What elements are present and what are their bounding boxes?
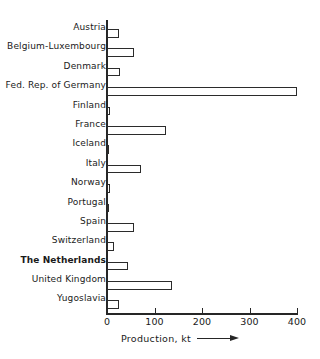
bar-row: Belgium-Luxembourg [0, 39, 320, 58]
bar-denmark [107, 68, 120, 77]
bar-row: Denmark [0, 59, 320, 78]
bar-france [107, 126, 166, 135]
bar-row: Italy [0, 156, 320, 175]
bar-row: Iceland [0, 136, 320, 155]
bar-iceland [107, 145, 109, 154]
category-label: Portugal [68, 197, 106, 208]
category-label: Finland [73, 100, 106, 111]
bar-finland [107, 107, 110, 116]
bar-austria [107, 29, 119, 38]
category-label: The Netherlands [20, 255, 106, 266]
bar-row: Spain [0, 214, 320, 233]
bar-the-netherlands [107, 262, 128, 271]
bar-row: Switzerland [0, 233, 320, 252]
right-arrow-icon [197, 335, 239, 343]
x-tick-label: 200 [193, 316, 212, 327]
category-label: Fed. Rep. of Germany [6, 80, 106, 91]
category-label: Iceland [72, 138, 106, 149]
x-tick-label: 300 [240, 316, 259, 327]
category-label: France [75, 119, 106, 130]
bar-row: Yugoslavia [0, 291, 320, 310]
category-label: Italy [86, 158, 106, 169]
bar-row: Austria [0, 20, 320, 39]
bar-spain [107, 223, 134, 232]
bar-yugoslavia [107, 300, 119, 309]
x-tick-label: 400 [288, 316, 307, 327]
category-label: Austria [73, 22, 106, 33]
x-tick [250, 308, 251, 314]
bar-row: Norway [0, 175, 320, 194]
bar-italy [107, 165, 141, 174]
bar-fed-rep-of-germany [107, 87, 297, 96]
bar-rows: AustriaBelgium-LuxembourgDenmarkFed. Rep… [0, 20, 320, 311]
category-label: Norway [71, 177, 106, 188]
x-tick [202, 308, 203, 314]
bar-row: Portugal [0, 195, 320, 214]
bar-row: Finland [0, 98, 320, 117]
bar-row: The Netherlands [0, 253, 320, 272]
x-tick [107, 308, 108, 314]
category-label: Belgium-Luxembourg [7, 41, 106, 52]
category-label: United Kingdom [32, 274, 106, 285]
x-tick-label: 100 [145, 316, 164, 327]
x-tick [155, 308, 156, 314]
category-label: Yugoslavia [57, 293, 106, 304]
bar-norway [107, 184, 110, 193]
bar-row: Fed. Rep. of Germany [0, 78, 320, 97]
bar-row: France [0, 117, 320, 136]
x-axis-title-label: Production, kt [121, 333, 191, 344]
x-tick-label: 0 [104, 316, 110, 327]
category-label: Switzerland [52, 235, 106, 246]
bar-portugal [107, 204, 109, 213]
category-label: Denmark [64, 61, 106, 72]
bar-belgium-luxembourg [107, 48, 134, 57]
bar-switzerland [107, 242, 114, 251]
bar-united-kingdom [107, 281, 172, 290]
x-tick [297, 308, 298, 314]
production-bar-chart: AustriaBelgium-LuxembourgDenmarkFed. Rep… [0, 0, 320, 359]
category-label: Spain [80, 216, 106, 227]
bar-row: United Kingdom [0, 272, 320, 291]
x-axis-title: Production, kt [0, 333, 320, 344]
